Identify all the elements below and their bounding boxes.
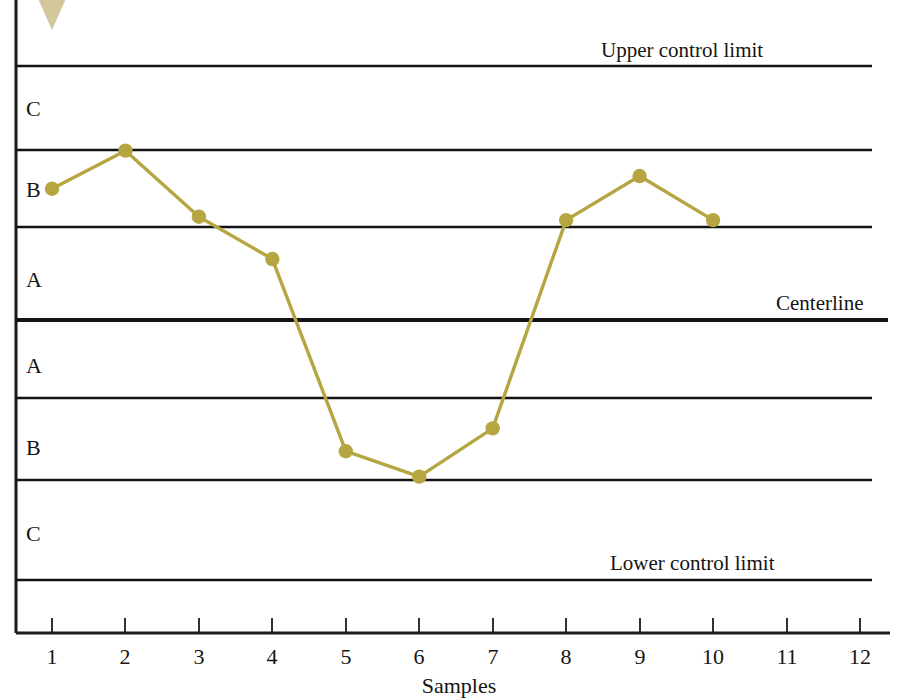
x-tick-label-8: 8 (561, 644, 572, 669)
x-axis-tick-labels: 1 2 3 4 5 6 7 8 9 10 11 12 (47, 644, 872, 669)
data-point-10 (706, 213, 720, 227)
zone-boundary-lines (16, 66, 888, 580)
control-chart-canvas: C B A A B C Upper control limit Centerli… (0, 0, 902, 700)
x-tick-label-10: 10 (702, 644, 724, 669)
data-series-line (52, 151, 713, 477)
x-tick-label-1: 1 (47, 644, 58, 669)
data-series-markers (45, 143, 720, 483)
x-tick-label-7: 7 (488, 644, 499, 669)
data-point-3 (192, 210, 206, 224)
data-series-group (45, 143, 720, 483)
zone-label-b-lower: B (26, 435, 41, 460)
limit-annotations: Upper control limit Centerline Lower con… (601, 38, 863, 575)
zone-label-a-lower: A (26, 353, 42, 378)
data-point-1 (45, 182, 59, 196)
x-axis-ticks (52, 618, 860, 633)
x-tick-label-9: 9 (635, 644, 646, 669)
x-tick-label-12: 12 (849, 644, 871, 669)
x-tick-label-3: 3 (194, 644, 205, 669)
zone-label-a-upper: A (26, 267, 42, 292)
zone-label-c-lower: C (26, 521, 41, 546)
x-tick-label-6: 6 (414, 644, 425, 669)
centerline-label: Centerline (776, 291, 863, 315)
data-point-5 (339, 444, 353, 458)
x-tick-label-2: 2 (120, 644, 131, 669)
x-tick-label-11: 11 (776, 644, 797, 669)
data-point-7 (486, 421, 500, 435)
lower-control-limit-label: Lower control limit (610, 551, 775, 575)
data-point-6 (412, 469, 426, 483)
out-of-control-arrow-icon (28, 0, 76, 30)
zone-label-b-upper: B (26, 177, 41, 202)
x-tick-label-4: 4 (267, 644, 278, 669)
control-chart: C B A A B C Upper control limit Centerli… (0, 0, 902, 700)
data-point-2 (118, 143, 132, 157)
upper-control-limit-label: Upper control limit (601, 38, 763, 62)
x-tick-label-5: 5 (341, 644, 352, 669)
data-point-8 (559, 213, 573, 227)
data-point-9 (632, 169, 646, 183)
x-axis-title: Samples (422, 673, 497, 698)
data-point-4 (265, 252, 279, 266)
zone-label-c-upper: C (26, 96, 41, 121)
